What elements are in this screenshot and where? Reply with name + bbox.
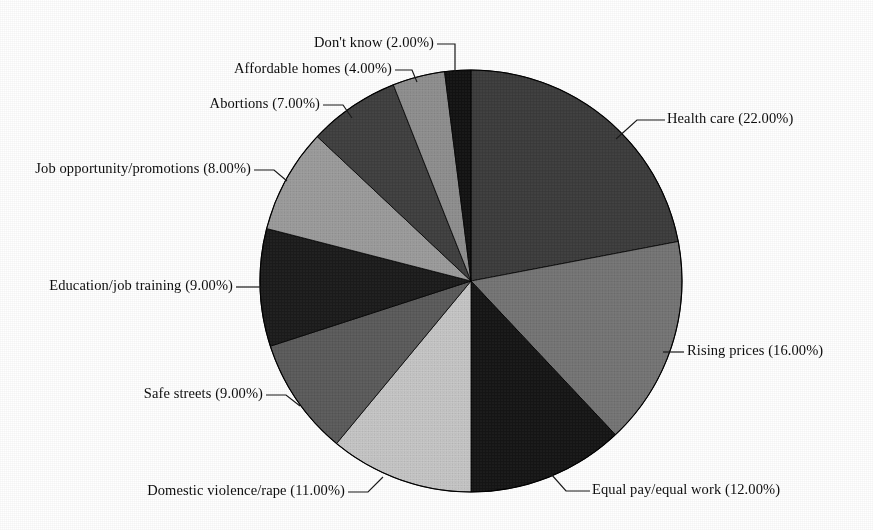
- slice-label-rising-prices: Rising prices (16.00%): [687, 342, 823, 359]
- slice-label-equal-pay: Equal pay/equal work (12.00%): [592, 481, 780, 498]
- slice-label-affordable-homes: Affordable homes (4.00%): [234, 60, 392, 77]
- pie-texture-overlay: [260, 70, 682, 492]
- slice-label-health-care: Health care (22.00%): [667, 110, 793, 127]
- leader-line-equal-pay: [551, 474, 590, 491]
- leader-line-job-opportunity: [254, 170, 287, 181]
- slice-label-domestic-violence: Domestic violence/rape (11.00%): [147, 482, 345, 499]
- slice-label-education: Education/job training (9.00%): [49, 277, 233, 294]
- pie-chart-svg: [0, 0, 873, 530]
- leader-line-domestic-violence: [348, 477, 383, 492]
- slice-label-job-opportunity: Job opportunity/promotions (8.00%): [35, 160, 251, 177]
- slice-label-abortions: Abortions (7.00%): [210, 95, 320, 112]
- leader-line-dont-know: [437, 44, 455, 72]
- slice-label-safe-streets: Safe streets (9.00%): [144, 385, 263, 402]
- slice-label-dont-know: Don't know (2.00%): [314, 34, 434, 51]
- pie-chart-figure: Health care (22.00%) Rising prices (16.0…: [0, 0, 873, 530]
